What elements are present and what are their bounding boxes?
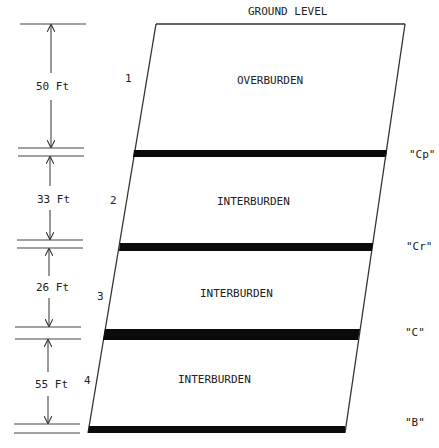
ground-level-label: GROUND LEVEL bbox=[248, 5, 328, 18]
layer-name-3: INTERBURDEN bbox=[200, 287, 273, 300]
layer-number-4: 4 bbox=[84, 374, 91, 387]
thickness-label-4: 55 Ft bbox=[35, 378, 68, 391]
left-edge-line bbox=[88, 24, 156, 433]
seam-band-b bbox=[88, 426, 345, 433]
thickness-dimensions: 50 Ft 33 Ft 26 Ft 55 Ft bbox=[14, 24, 86, 433]
seam-label-cp: "Cp" bbox=[409, 148, 436, 161]
layer-name-2: INTERBURDEN bbox=[217, 195, 290, 208]
thickness-label-1: 50 Ft bbox=[36, 80, 69, 93]
layer-name-1: OVERBURDEN bbox=[237, 74, 303, 87]
layer-name-4: INTERBURDEN bbox=[178, 373, 251, 386]
right-edge-line bbox=[345, 24, 405, 433]
thickness-label-2: 33 Ft bbox=[37, 193, 70, 206]
layer-number-3: 3 bbox=[97, 290, 104, 303]
seam-label-cr: "Cr" bbox=[406, 240, 433, 253]
stratigraphic-section-diagram: GROUND LEVEL "Cp" "Cr" "C" "B" OVERBURDE… bbox=[0, 0, 439, 448]
seam-band-cp bbox=[133, 150, 387, 157]
seam-band-cr bbox=[119, 243, 373, 251]
layer-number-2: 2 bbox=[110, 194, 117, 207]
thickness-label-3: 26 Ft bbox=[36, 281, 69, 294]
seam-band-c bbox=[103, 329, 360, 340]
seam-label-c: "C" bbox=[405, 326, 425, 339]
layer-number-1: 1 bbox=[125, 72, 132, 85]
seam-label-b: "B" bbox=[405, 416, 425, 429]
